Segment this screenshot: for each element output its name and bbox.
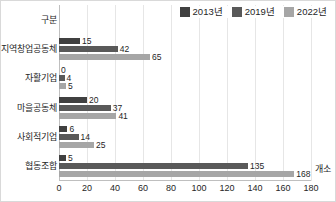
x-axis-tick-label: 0 xyxy=(56,182,61,194)
bar-line: 5 xyxy=(59,83,311,89)
legend-item-label: 2019년 xyxy=(245,7,275,17)
x-axis-tick-label: 40 xyxy=(110,182,120,194)
legend-swatch-icon xyxy=(232,7,242,17)
bar-line: 20 xyxy=(59,97,311,103)
bar-line: 25 xyxy=(59,142,311,148)
x-axis-tick-label: 80 xyxy=(166,182,176,194)
bar-group: 5135168 xyxy=(59,152,311,181)
bar[interactable] xyxy=(59,126,67,132)
chart-legend: 2013년 2019년 2022년 xyxy=(178,6,329,18)
legend-swatch-icon xyxy=(284,7,294,17)
bar[interactable] xyxy=(59,105,111,111)
bar-value-label: 168 xyxy=(296,170,310,178)
bar-group: 154265 xyxy=(59,34,311,63)
bar-value-label: 0 xyxy=(61,66,66,74)
unit-label: 개소 xyxy=(315,164,331,174)
x-axis-tick-label: 160 xyxy=(275,182,290,194)
bar-value-label: 5 xyxy=(68,82,73,90)
bar[interactable] xyxy=(59,113,116,119)
bar-value-label: 135 xyxy=(250,162,264,170)
bar[interactable] xyxy=(59,171,294,177)
bar[interactable] xyxy=(59,83,66,89)
x-axis-ticks: 020406080100120140160180 xyxy=(59,182,311,196)
y-axis-labels: 구분지역창업공동체자활기업마을공동체사회적기업협동조합 xyxy=(1,5,57,181)
legend-item-2022[interactable]: 2022년 xyxy=(284,7,327,17)
bar[interactable] xyxy=(59,46,118,52)
y-axis-header-label: 구분 xyxy=(1,15,57,25)
bar-value-label: 5 xyxy=(68,154,73,162)
plot-area: 154265045203741614255135168 xyxy=(59,5,311,181)
bar-group: 045 xyxy=(59,64,311,93)
legend-swatch-icon xyxy=(180,7,190,17)
bar-line: 0 xyxy=(59,67,311,73)
legend-item-label: 2013년 xyxy=(193,7,223,17)
legend-item-2019[interactable]: 2019년 xyxy=(232,7,275,17)
bar-value-label: 25 xyxy=(96,141,105,149)
bar[interactable] xyxy=(59,142,94,148)
bar-line: 37 xyxy=(59,105,311,111)
bar-line: 42 xyxy=(59,46,311,52)
x-axis-tick-label: 120 xyxy=(219,182,234,194)
bar-line: 6 xyxy=(59,126,311,132)
legend-item-2013[interactable]: 2013년 xyxy=(180,7,223,17)
gridline xyxy=(311,5,312,181)
y-axis-category-label: 협동조합 xyxy=(1,161,57,171)
legend-item-label: 2022년 xyxy=(297,7,327,17)
chart-container: 2013년 2019년 2022년 구분지역창업공동체자활기업마을공동체사회적기… xyxy=(0,0,336,202)
y-axis-category-label: 마을공동체 xyxy=(1,103,57,113)
bar-value-label: 20 xyxy=(89,96,98,104)
bar[interactable] xyxy=(59,134,79,140)
x-axis-tick-label: 100 xyxy=(191,182,206,194)
x-axis-tick-label: 180 xyxy=(303,182,318,194)
bar-value-label: 14 xyxy=(81,133,90,141)
y-axis-category-label: 지역창업공동체 xyxy=(1,44,57,54)
bar-group: 203741 xyxy=(59,93,311,122)
bar-line: 168 xyxy=(59,171,311,177)
y-axis-category-label: 사회적기업 xyxy=(1,132,57,142)
bar[interactable] xyxy=(59,54,150,60)
bar[interactable] xyxy=(59,38,80,44)
bar-value-label: 6 xyxy=(69,125,74,133)
bar-line: 5 xyxy=(59,155,311,161)
bar-line: 4 xyxy=(59,75,311,81)
bar[interactable] xyxy=(59,75,65,81)
bar[interactable] xyxy=(59,155,66,161)
bar-value-label: 42 xyxy=(120,45,129,53)
bar-line: 41 xyxy=(59,113,311,119)
bar-group: 61425 xyxy=(59,122,311,151)
x-axis-tick-label: 20 xyxy=(82,182,92,194)
y-axis-category-label: 자활기업 xyxy=(1,73,57,83)
bar-value-label: 41 xyxy=(118,112,127,120)
bar-value-label: 65 xyxy=(152,53,161,61)
bar[interactable] xyxy=(59,163,248,169)
x-axis-tick-label: 60 xyxy=(138,182,148,194)
x-axis-tick-label: 140 xyxy=(247,182,262,194)
bar-line: 65 xyxy=(59,54,311,60)
bar-value-label: 15 xyxy=(82,37,91,45)
bar-line: 135 xyxy=(59,163,311,169)
bar-line: 15 xyxy=(59,38,311,44)
bar[interactable] xyxy=(59,97,87,103)
